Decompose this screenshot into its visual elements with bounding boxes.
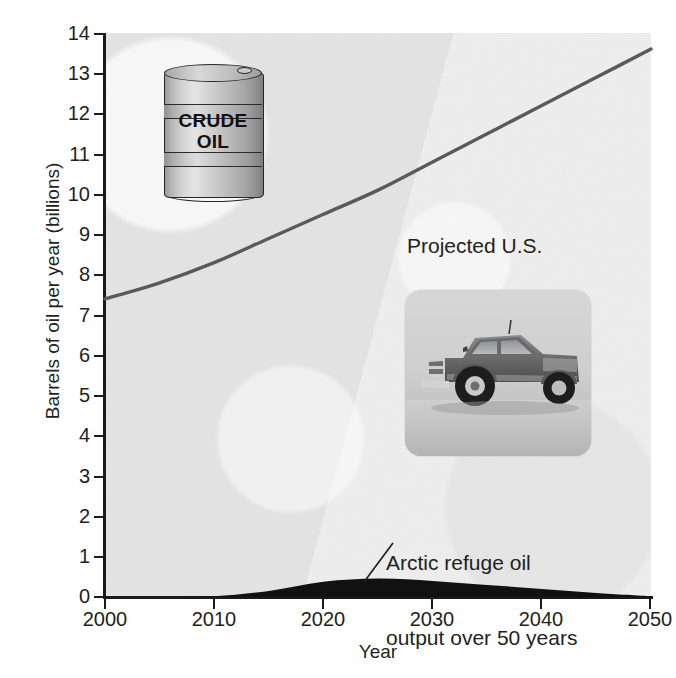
- oil-projection-chart: 14 13 12 11 10 9 8 7 6 5 4 3 2 1 0 2000 …: [0, 0, 676, 678]
- arctic-annotation-line1: Arctic refuge oil: [386, 550, 577, 575]
- barrel-cap-icon: [237, 67, 252, 74]
- arctic-annotation-line2: output over 50 years: [386, 625, 577, 650]
- barrel-caption-line2: OIL: [164, 131, 262, 152]
- consumption-annotation-line1: Projected U.S.: [407, 233, 553, 258]
- crude-oil-barrel-icon: CRUDE OIL: [160, 60, 266, 202]
- barrel-caption-line1: CRUDE: [164, 110, 262, 131]
- barrel-caption: CRUDE OIL: [164, 110, 262, 152]
- pickup-truck-photo: [405, 290, 591, 456]
- pickup-truck-illustration: [405, 290, 591, 456]
- barrel-rib-lower: [164, 152, 262, 167]
- arctic-annotation: Arctic refuge oil output over 50 years: [386, 500, 577, 678]
